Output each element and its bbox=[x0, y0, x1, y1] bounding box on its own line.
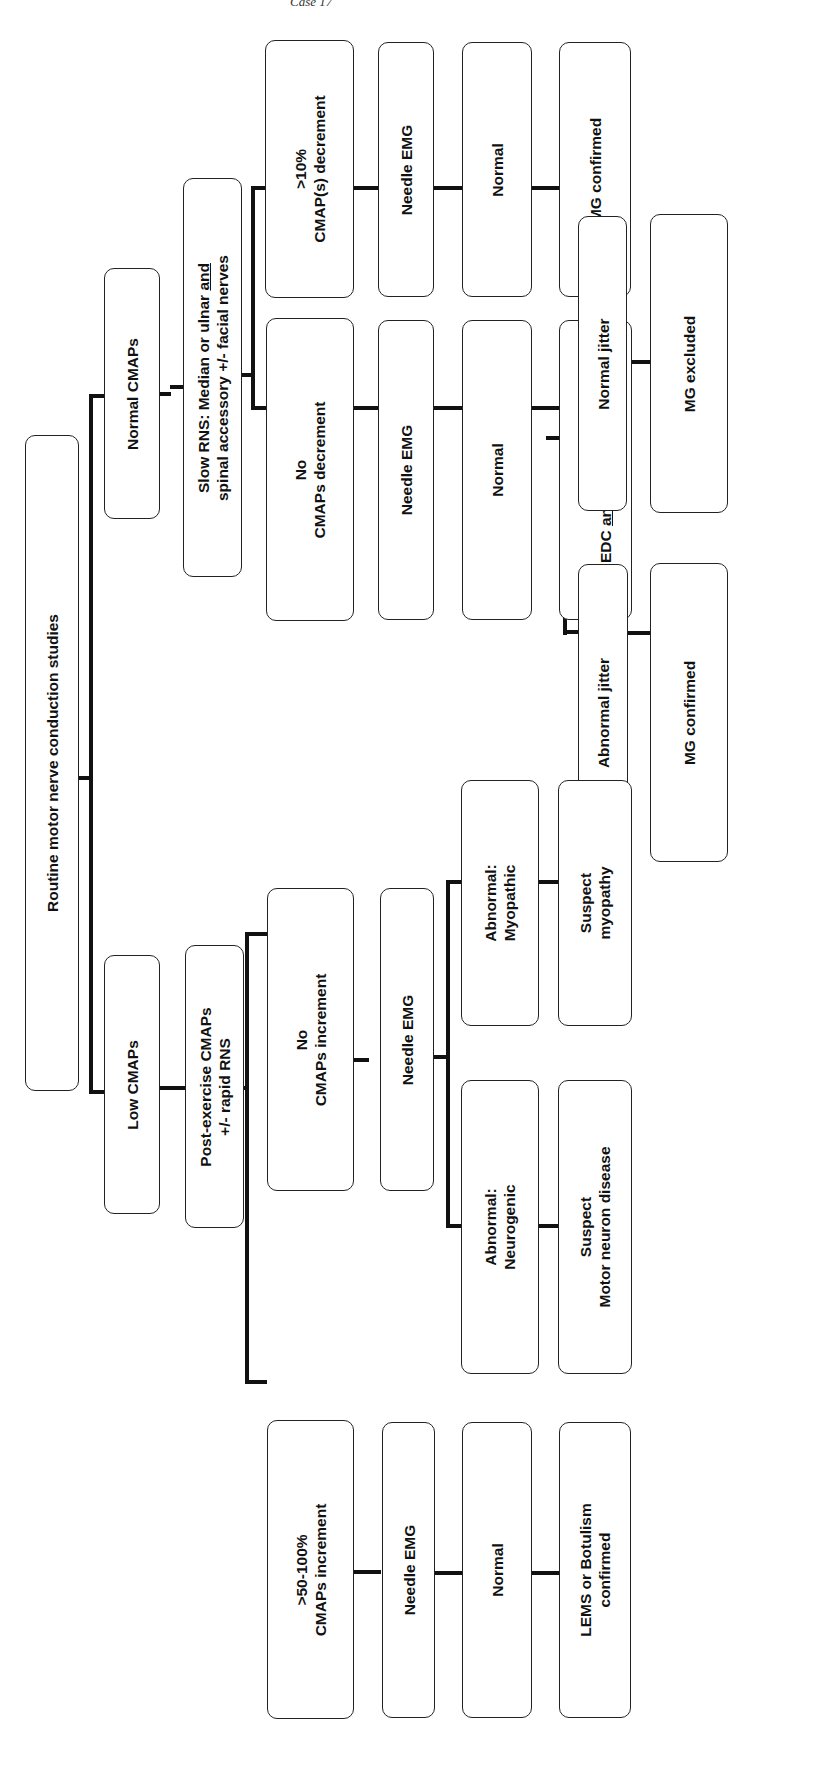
node-label: Slow RNS: Median or ulnar and spinal acc… bbox=[194, 255, 232, 501]
node-post-exercise: Post-exercise CMAPs +/- rapid RNS bbox=[185, 945, 244, 1228]
connector bbox=[245, 1380, 267, 1384]
node-normal-jitter: Normal jitter bbox=[578, 216, 627, 511]
node-label: Normal bbox=[488, 143, 507, 196]
node-label: Low CMAPs bbox=[123, 1040, 142, 1130]
connector bbox=[89, 1090, 105, 1094]
connector bbox=[446, 880, 450, 1224]
node-mg-confirmed: MG confirmed bbox=[650, 563, 728, 862]
connector bbox=[446, 1224, 462, 1228]
node-decrement-gt10: >10% CMAP(s) decrement bbox=[265, 40, 354, 298]
node-lems-botulism: LEMS or Botulism confirmed bbox=[559, 1422, 631, 1718]
connector bbox=[530, 186, 560, 190]
node-needle-emg: Needle EMG bbox=[378, 320, 434, 620]
connector bbox=[89, 394, 105, 398]
running-title: Case 17 bbox=[290, 0, 332, 10]
node-label: MG excluded bbox=[680, 315, 699, 411]
connector bbox=[245, 932, 249, 1383]
connector bbox=[159, 392, 171, 396]
node-label: No CMAPs decrement bbox=[291, 401, 329, 538]
node-label: Suspect myopathy bbox=[576, 866, 614, 939]
node-label: LEMS or Botulism confirmed bbox=[576, 1503, 614, 1636]
node-label: No CMAPs increment bbox=[292, 973, 330, 1106]
connector bbox=[625, 631, 651, 635]
node-label: Abnormal: Myopathic bbox=[481, 864, 519, 942]
node-emg-normal: Normal bbox=[462, 1422, 532, 1718]
node-suspect-mnd: Suspect Motor neuron disease bbox=[558, 1080, 632, 1374]
connector bbox=[353, 406, 379, 410]
node-label: Needle EMG bbox=[398, 994, 417, 1084]
node-label: Normal jitter bbox=[593, 318, 612, 409]
node-needle-emg: Needle EMG bbox=[380, 888, 434, 1191]
node-label: Abnormal jitter bbox=[594, 657, 613, 767]
node-label: MG confirmed bbox=[680, 660, 699, 764]
node-increment-50-100: >50-100% CMAPs increment bbox=[267, 1420, 354, 1719]
node-needle-emg: Needle EMG bbox=[382, 1422, 435, 1718]
connector bbox=[170, 385, 184, 389]
node-label: Normal bbox=[488, 1543, 507, 1596]
node-label: Routine motor nerve conduction studies bbox=[43, 614, 62, 912]
connector bbox=[241, 373, 253, 377]
connector bbox=[532, 1571, 562, 1575]
connector bbox=[433, 186, 463, 190]
connector bbox=[434, 1571, 462, 1575]
node-emg-normal: Normal bbox=[462, 320, 532, 620]
node-label: Needle EMG bbox=[397, 425, 416, 515]
node-abnormal-neurogenic: Abnormal: Neurogenic bbox=[461, 1080, 539, 1374]
node-needle-emg: Needle EMG bbox=[378, 42, 434, 297]
node-label: >50-100% CMAPs increment bbox=[292, 1503, 330, 1636]
node-suspect-myopathy: Suspect myopathy bbox=[558, 780, 632, 1026]
node-label: Normal bbox=[488, 443, 507, 496]
node-label: Needle EMG bbox=[397, 124, 416, 214]
connector bbox=[159, 1086, 186, 1090]
node-label: Normal CMAPs bbox=[123, 338, 142, 450]
connector bbox=[353, 186, 379, 190]
node-slow-rns: Slow RNS: Median or ulnar and spinal acc… bbox=[183, 178, 242, 577]
node-label: MG confirmed bbox=[586, 117, 605, 221]
connector bbox=[437, 1055, 449, 1059]
node-abnormal-myopathic: Abnormal: Myopathic bbox=[461, 780, 539, 1026]
connector bbox=[245, 932, 267, 936]
node-mg-excluded: MG excluded bbox=[650, 214, 728, 513]
node-low-cmaps: Low CMAPs bbox=[104, 955, 160, 1214]
connector bbox=[433, 406, 463, 410]
node-routine-ncs: Routine motor nerve conduction studies bbox=[25, 435, 79, 1091]
node-normal-cmaps: Normal CMAPs bbox=[104, 268, 160, 519]
node-emg-normal: Normal bbox=[462, 42, 532, 297]
connector bbox=[353, 1570, 381, 1574]
node-label: >10% CMAP(s) decrement bbox=[291, 95, 329, 242]
connector bbox=[530, 406, 560, 410]
node-label: Post-exercise CMAPs +/- rapid RNS bbox=[196, 1007, 234, 1166]
connector bbox=[446, 880, 462, 884]
node-label: Suspect Motor neuron disease bbox=[576, 1146, 614, 1307]
connector bbox=[251, 406, 267, 410]
connector bbox=[89, 394, 93, 1094]
node-label: Abnormal: Neurogenic bbox=[481, 1184, 519, 1269]
connector bbox=[563, 630, 579, 634]
node-no-increment: No CMAPs increment bbox=[267, 888, 354, 1191]
node-label: Needle EMG bbox=[399, 1525, 418, 1615]
node-no-decrement: No CMAPs decrement bbox=[266, 318, 354, 621]
connector bbox=[353, 1058, 369, 1062]
